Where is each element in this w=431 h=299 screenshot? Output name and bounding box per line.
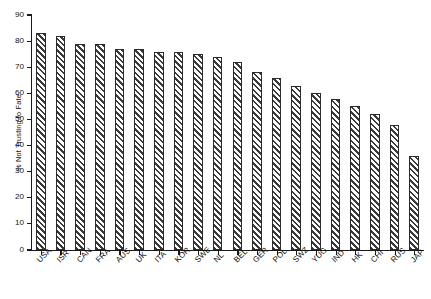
y-tick-label: 50 <box>15 114 24 124</box>
y-tick-label: 90 <box>15 10 24 20</box>
x-axis-label-ITA: ITA <box>153 249 168 264</box>
y-tick-label: 20 <box>15 192 24 202</box>
bar-HK <box>350 106 360 250</box>
bar-JAP <box>409 156 419 250</box>
bar-SWE <box>193 54 203 250</box>
y-tick-label: 70 <box>15 62 24 72</box>
bar-KOR <box>174 52 184 250</box>
y-tick-label: 80 <box>15 36 24 46</box>
bar-RUS <box>390 125 400 250</box>
y-axis-title: % Not Trusting to Fate <box>14 58 23 208</box>
bar-chart: % Not Trusting to Fate 01020304050607080… <box>0 0 431 299</box>
bar-CAN <box>75 44 85 250</box>
bar-POL <box>272 78 282 250</box>
bar-NL <box>213 57 223 250</box>
bar-SWZ <box>291 86 301 251</box>
x-axis-label-UK: UK <box>134 250 148 264</box>
bar-BEL <box>233 62 243 250</box>
x-axis-label-NL: NL <box>212 251 226 265</box>
y-tick-label: 60 <box>15 88 24 98</box>
bar-AUS <box>115 49 125 250</box>
bar-ITA <box>154 52 164 250</box>
y-tick-label: 40 <box>15 140 24 150</box>
plot-area <box>31 15 424 250</box>
bar-YUG <box>311 93 321 250</box>
bar-CHI <box>370 114 380 250</box>
y-tick-label: 0 <box>19 245 24 255</box>
bar-FRA <box>95 44 105 250</box>
bar-ISR <box>56 36 66 250</box>
bar-IND <box>331 99 341 250</box>
y-tick-label: 10 <box>15 218 24 228</box>
bar-GER <box>252 72 262 250</box>
y-tick-label: 30 <box>15 166 24 176</box>
x-axis-label-HK: HK <box>350 250 364 264</box>
bar-UK <box>134 49 144 250</box>
bar-USA <box>36 33 46 250</box>
